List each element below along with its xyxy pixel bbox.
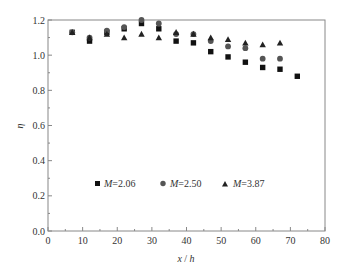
triangle-marker-icon	[259, 41, 265, 47]
x-tick-label: 40	[182, 235, 192, 246]
y-tick-label: 0.6	[33, 120, 46, 131]
legend-circle-marker-icon	[160, 181, 165, 186]
square-marker-icon	[173, 38, 178, 43]
data-points	[69, 17, 300, 79]
square-marker-icon	[295, 74, 300, 79]
x-axis-ticks: 01020304050607080	[46, 227, 331, 246]
plot-frame	[48, 20, 325, 231]
square-marker-icon	[277, 67, 282, 72]
y-tick-label: 1.0	[33, 50, 46, 61]
x-tick-label: 0	[46, 235, 51, 246]
scatter-plot: 01020304050607080 0.00.20.40.60.81.01.2 …	[0, 0, 343, 271]
circle-marker-icon	[121, 24, 127, 30]
triangle-marker-icon	[173, 29, 179, 35]
x-tick-label: 10	[78, 235, 88, 246]
plot-area-border	[48, 20, 325, 231]
x-tick-label: 20	[112, 235, 122, 246]
y-axis-ticks: 0.00.20.40.60.81.01.2	[33, 15, 53, 237]
circle-marker-icon	[277, 56, 283, 62]
square-marker-icon	[208, 49, 213, 54]
legend-label-m250: M=2.50	[169, 178, 201, 189]
legend: M=2.06 M=2.50 M=3.87	[95, 178, 264, 189]
circle-marker-icon	[260, 56, 266, 62]
x-tick-label: 50	[216, 235, 226, 246]
circle-marker-icon	[242, 45, 248, 51]
y-axis-label: η	[14, 123, 25, 128]
square-marker-icon	[156, 26, 161, 31]
triangle-marker-icon	[121, 34, 127, 40]
y-tick-label: 0.0	[33, 226, 46, 237]
square-marker-icon	[243, 60, 248, 65]
legend-label-m387: M=3.87	[232, 178, 264, 189]
circle-marker-icon	[139, 17, 145, 23]
chart-container: 01020304050607080 0.00.20.40.60.81.01.2 …	[0, 0, 343, 271]
triangle-marker-icon	[156, 34, 162, 40]
legend-triangle-marker-icon	[222, 181, 228, 187]
y-tick-label: 1.2	[33, 15, 46, 26]
x-tick-label: 30	[147, 235, 157, 246]
x-axis-label: x / h	[176, 253, 194, 264]
triangle-marker-icon	[277, 40, 283, 46]
legend-square-marker-icon	[95, 181, 100, 186]
circle-marker-icon	[225, 43, 231, 49]
x-tick-label: 70	[285, 235, 295, 246]
triangle-marker-icon	[138, 31, 144, 37]
y-tick-label: 0.2	[33, 190, 46, 201]
legend-label-m206: M=2.06	[103, 178, 135, 189]
y-tick-label: 0.8	[33, 85, 46, 96]
circle-marker-icon	[156, 21, 162, 27]
square-marker-icon	[225, 54, 230, 59]
triangle-marker-icon	[242, 40, 248, 46]
x-tick-label: 60	[251, 235, 261, 246]
triangle-marker-icon	[225, 36, 231, 42]
square-marker-icon	[260, 65, 265, 70]
y-tick-label: 0.4	[33, 155, 46, 166]
triangle-marker-icon	[208, 34, 214, 40]
square-marker-icon	[191, 40, 196, 45]
x-tick-label: 80	[320, 235, 330, 246]
